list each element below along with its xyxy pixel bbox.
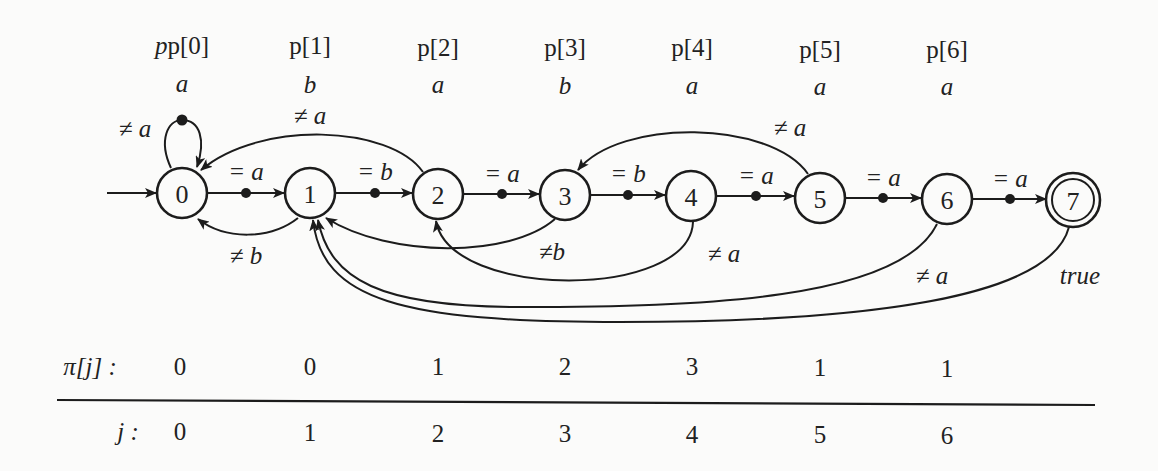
edge-dot xyxy=(497,189,507,199)
edge-label-1-2: = b xyxy=(357,158,393,185)
j-value-4: 4 xyxy=(686,421,699,448)
edge-label-5-3: ≠ a xyxy=(774,114,806,141)
j-value-5: 5 xyxy=(814,421,827,448)
pattern-char-4: a xyxy=(686,72,699,99)
state-3: 3 xyxy=(540,170,590,220)
edge-label-3-1: ≠b xyxy=(539,238,565,265)
pattern-header-3: p[3] xyxy=(544,34,586,61)
state-1: 1 xyxy=(285,168,335,218)
state-label: 0 xyxy=(176,180,189,209)
kmp-automaton-diagram: pp[0] p[1] p[2] p[3] p[4] p[5] p[6] a b … xyxy=(0,0,1158,471)
pattern-header-5: p[5] xyxy=(799,36,841,63)
edge-dot xyxy=(177,115,188,126)
pattern-header-text: p[0] xyxy=(167,32,209,59)
edge-0-0 xyxy=(165,120,201,168)
edge-dot xyxy=(1005,194,1015,204)
pattern-header-2: p[2] xyxy=(417,34,459,61)
pattern-header-text: p[1] xyxy=(289,32,331,59)
state-0: 0 xyxy=(157,168,207,218)
edge-label-5-6: = a xyxy=(865,164,901,191)
state-6: 6 xyxy=(922,174,972,224)
edge-label-3-4: = b xyxy=(610,160,646,187)
edge-label-2-0: ≠ a xyxy=(294,102,326,129)
edge-dot xyxy=(878,193,888,203)
state-label: 5 xyxy=(814,185,827,214)
edge-label-0-0: ≠ a xyxy=(119,115,151,142)
pattern-char-3: b xyxy=(559,72,572,99)
edge-label-4-5: = a xyxy=(738,162,774,189)
pattern-char-1: b xyxy=(304,71,317,98)
edge-label-0-1: = a xyxy=(228,158,264,185)
edge-dot xyxy=(751,191,761,201)
state-4: 4 xyxy=(666,171,716,221)
j-value-3: 3 xyxy=(559,420,572,447)
pattern-header-6: p[6] xyxy=(926,36,968,63)
pattern-header-0: pp[0] xyxy=(153,32,209,59)
pattern-header-4: p[4] xyxy=(671,34,713,61)
edge-label-2-3: = a xyxy=(484,160,520,187)
table-divider xyxy=(57,400,1095,405)
state-7-accepting: 7 xyxy=(1046,173,1100,227)
pattern-header-1: p[1] xyxy=(289,32,331,59)
pattern-header-text: p[2] xyxy=(417,34,459,61)
failure-table: π[j] : 0 0 1 2 3 1 1 j : 0 1 2 3 4 5 6 xyxy=(57,353,1095,449)
edge-1-0 xyxy=(198,218,298,235)
pi-row-label: π[j] : xyxy=(63,353,117,380)
edge-label-6-1: ≠ a xyxy=(916,262,948,289)
edge-6-1 xyxy=(318,220,937,307)
state-label: 1 xyxy=(304,180,317,209)
edge-dot xyxy=(623,190,633,200)
pattern-header-text: p[4] xyxy=(671,34,713,61)
pattern-char-6: a xyxy=(941,73,954,100)
pattern-header-text: p[5] xyxy=(799,36,841,63)
pattern-char-0: a xyxy=(176,70,189,97)
state-2: 2 xyxy=(413,169,463,219)
state-label: 7 xyxy=(1067,187,1080,216)
state-label: 3 xyxy=(559,182,572,211)
pi-value-3: 2 xyxy=(559,353,572,380)
state-label: 2 xyxy=(432,181,445,210)
state-5: 5 xyxy=(795,173,845,223)
pattern-char-2: a xyxy=(432,71,445,98)
state-label: 4 xyxy=(685,183,698,212)
pi-value-5: 1 xyxy=(814,354,827,381)
pi-value-0: 0 xyxy=(174,353,187,380)
edge-label-1-0: ≠ b xyxy=(230,242,262,269)
pi-value-2: 1 xyxy=(432,353,445,380)
pi-value-4: 3 xyxy=(686,353,699,380)
edge-dot xyxy=(241,188,251,198)
j-row-label: j : xyxy=(114,418,139,445)
pattern-headers: pp[0] p[1] p[2] p[3] p[4] p[5] p[6] xyxy=(153,32,968,63)
pattern-chars: a b a b a a a xyxy=(176,70,954,100)
j-value-6: 6 xyxy=(941,422,954,449)
state-label: 6 xyxy=(941,186,954,215)
j-value-1: 1 xyxy=(304,419,317,446)
pattern-header-text: p[3] xyxy=(544,34,586,61)
forward-labels: = a = b = a = b = a = a = a xyxy=(228,158,1028,192)
pi-value-6: 1 xyxy=(941,355,954,382)
edge-dot xyxy=(370,188,380,198)
pattern-header-text: p[6] xyxy=(926,36,968,63)
edge-label-7-1: true xyxy=(1060,262,1100,289)
edge-label-4-2: ≠ a xyxy=(708,240,740,267)
pattern-char-5: a xyxy=(814,73,827,100)
pi-value-1: 0 xyxy=(304,353,317,380)
j-value-0: 0 xyxy=(174,418,187,445)
j-value-2: 2 xyxy=(432,420,445,447)
edge-label-6-7: = a xyxy=(992,165,1028,192)
